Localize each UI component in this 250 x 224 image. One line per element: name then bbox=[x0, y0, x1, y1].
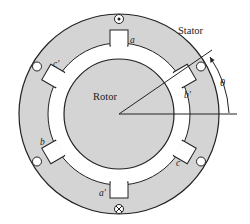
conductor-empty-icon bbox=[33, 62, 42, 71]
stator-rotor-diagram: Stator Rotor θ a b′ c a′ b c′ bbox=[0, 0, 250, 224]
slot-label-b-prime: b′ bbox=[184, 90, 192, 100]
slot-label-a: a bbox=[130, 35, 135, 45]
slot-a-prime bbox=[110, 179, 128, 198]
theta-label: θ bbox=[220, 77, 225, 88]
conductor-dot-icon bbox=[115, 15, 124, 24]
stator-label: Stator bbox=[178, 25, 204, 36]
slot-a bbox=[110, 30, 128, 49]
rotor-label: Rotor bbox=[93, 91, 117, 102]
conductor-empty-icon bbox=[197, 62, 206, 71]
slot-label-c-prime: c′ bbox=[53, 59, 60, 69]
slot-label-a-prime: a′ bbox=[99, 188, 107, 198]
conductor-empty-icon bbox=[197, 157, 206, 166]
slot-label-b: b bbox=[40, 137, 45, 147]
conductor-cross-icon bbox=[115, 205, 124, 214]
conductor-empty-icon bbox=[33, 157, 42, 166]
